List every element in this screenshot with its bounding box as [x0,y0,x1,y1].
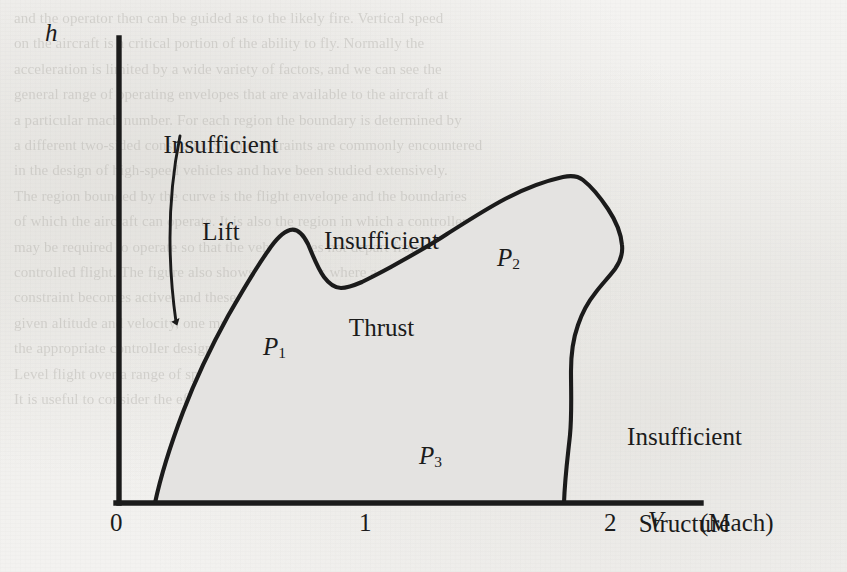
insufficient-structure-line1: Insufficient [592,422,777,451]
region-label-p1: P1 [263,332,286,362]
insufficient-thrust-label: Insufficient Thrust [294,168,469,400]
insufficient-thrust-line1: Insufficient [294,226,469,255]
region-label-p3-sub: 3 [434,453,442,470]
y-axis-label: h [45,18,58,47]
x-tick-label-0: 0 [110,508,123,537]
insufficient-structure-line2: Structure [592,509,777,538]
scanned-figure-page: and the operator then can be guided as t… [0,0,847,572]
x-tick-label-1: 1 [359,508,372,537]
region-label-p2-letter: P [497,244,512,271]
region-label-p3-letter: P [419,442,434,469]
insufficient-thrust-line2: Thrust [294,313,469,342]
insufficient-lift-line2: Lift [136,217,306,246]
insufficient-lift-label: Insufficient Lift [136,72,306,304]
region-label-p1-sub: 1 [278,344,286,361]
insufficient-lift-line1: Insufficient [136,130,306,159]
region-label-p2-sub: 2 [512,255,520,272]
insufficient-structure-label: Insufficient Structure [592,364,777,572]
region-label-p2: P2 [497,243,520,273]
region-label-p3: P3 [419,441,442,471]
region-label-p1-letter: P [263,333,278,360]
